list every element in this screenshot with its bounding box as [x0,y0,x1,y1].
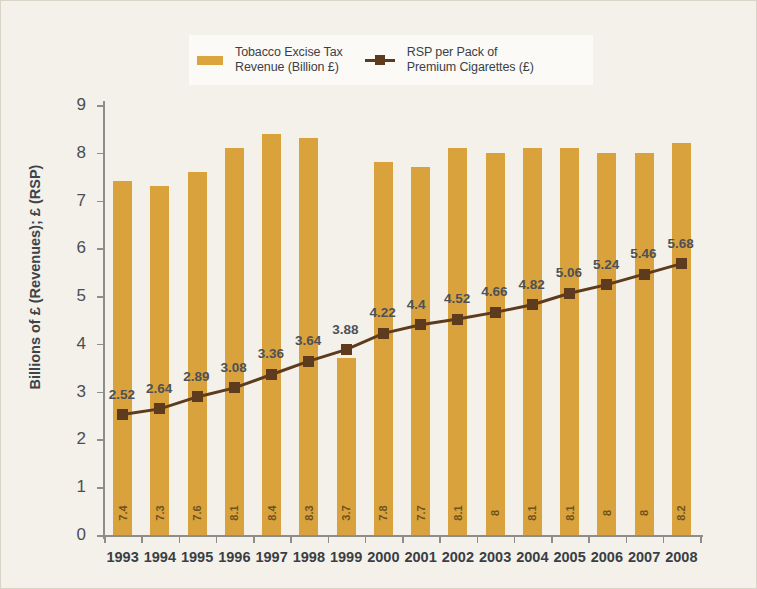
bar [262,134,281,535]
bar [113,181,132,535]
y-tick-label: 1 [56,477,86,497]
bar [448,148,467,535]
bar [411,167,430,535]
bar-value-label: 7.7 [415,498,427,528]
y-tick-label: 3 [56,382,86,402]
line-value-label: 2.64 [146,381,172,396]
y-tick-mark [97,153,104,155]
line-marker [415,319,426,330]
y-tick-label: 4 [56,334,86,354]
x-tick-mark [663,536,665,543]
line-value-label: 4.52 [444,291,470,306]
x-tick-mark [328,536,330,543]
legend-label-tobacco-excise-tax-revenue: Tobacco Excise Tax Revenue (Billion £) [235,45,343,75]
line-value-label: 3.36 [258,346,284,361]
bar [672,143,691,535]
line-marker [452,314,463,325]
chart-figure: Tobacco Excise Tax Revenue (Billion £) R… [0,0,757,589]
bar-value-label: 3.7 [340,498,352,528]
line-marker [639,269,650,280]
bar [374,162,393,535]
line-value-label: 3.64 [295,333,321,348]
legend-entry-tobacco-excise-tax-revenue: Tobacco Excise Tax Revenue (Billion £) [197,45,343,75]
x-tick-mark [365,536,367,543]
bar-value-label: 8 [489,498,501,528]
line-value-label: 4.66 [481,284,507,299]
bar [486,153,505,535]
bar-value-label: 8.2 [675,498,687,528]
x-tick-mark [253,536,255,543]
line-marker [303,356,314,367]
y-tick-label: 6 [56,238,86,258]
bar-value-label: 7.6 [191,498,203,528]
bar-swatch-icon [197,56,223,65]
legend-label-rsp-per-pack: RSP per Pack of Premium Cigarettes (£) [407,45,534,75]
line-value-label: 3.88 [332,322,358,337]
y-tick-mark [97,392,104,394]
line-value-label: 5.24 [593,257,619,272]
line-marker [266,369,277,380]
bar-value-label: 8.3 [303,498,315,528]
y-tick-label: 5 [56,286,86,306]
x-tick-label: 2008 [658,549,704,565]
line-value-label: 5.68 [667,236,693,251]
x-tick-mark [216,536,218,543]
line-value-label: 5.46 [630,246,656,261]
y-tick-mark [97,201,104,203]
line-value-label: 4.22 [369,305,395,320]
bar [523,148,542,535]
line-marker [490,307,501,318]
y-tick-label: 0 [56,525,86,545]
y-tick-mark [97,439,104,441]
y-tick-mark [97,296,104,298]
line-marker [341,344,352,355]
y-axis-title: Billions of £ (Revenues); £ (RSP) [27,77,43,477]
legend-entry-rsp-per-pack: RSP per Pack of Premium Cigarettes (£) [365,45,534,75]
y-tick-mark [97,487,104,489]
line-marker [117,409,128,420]
x-tick-mark [551,536,553,543]
x-tick-mark [477,536,479,543]
bar [188,172,207,535]
line-marker [378,328,389,339]
line-marker [154,403,165,414]
bar-value-label: 8.1 [228,498,240,528]
x-tick-mark [700,536,702,543]
legend-square-marker [375,55,385,65]
line-marker [676,258,687,269]
line-value-label: 4.4 [407,297,426,312]
y-axis-line [103,101,105,539]
line-value-label: 5.06 [556,265,582,280]
bar-value-label: 8.1 [564,498,576,528]
line-marker [192,391,203,402]
line-value-label: 3.08 [220,360,246,375]
bar-value-label: 8 [638,498,650,528]
line-square-swatch-icon [365,54,395,66]
y-tick-mark [97,535,104,537]
x-tick-mark [104,536,106,543]
y-tick-mark [97,248,104,250]
bar-value-label: 7.8 [377,498,389,528]
y-tick-mark [97,344,104,346]
x-tick-mark [141,536,143,543]
bar-value-label: 8.1 [526,498,538,528]
line-marker [527,299,538,310]
line-marker [229,382,240,393]
y-tick-label: 2 [56,429,86,449]
line-marker [564,288,575,299]
bar [597,153,616,535]
y-tick-label: 9 [56,95,86,115]
bar [225,148,244,535]
line-value-label: 2.89 [183,369,209,384]
bar-value-label: 8.1 [452,498,464,528]
bar-value-label: 7.4 [117,498,129,528]
x-tick-mark [179,536,181,543]
line-value-label: 2.52 [109,387,135,402]
bar-value-label: 7.3 [154,498,166,528]
y-tick-label: 7 [56,191,86,211]
x-tick-mark [626,536,628,543]
x-tick-mark [588,536,590,543]
x-tick-mark [290,536,292,543]
bar [150,186,169,535]
line-value-label: 4.82 [518,277,544,292]
